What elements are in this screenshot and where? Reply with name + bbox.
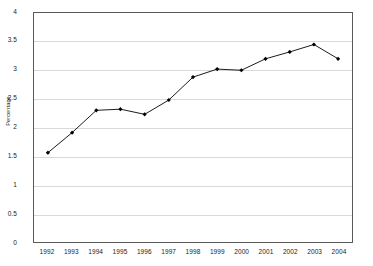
x-tick-label: 2004 <box>319 249 359 256</box>
y-tick-label: 0 <box>0 240 17 247</box>
data-point-marker <box>143 112 147 116</box>
data-point-marker <box>288 50 292 54</box>
data-point-marker <box>215 67 219 71</box>
series-polyline <box>48 44 338 152</box>
data-point-marker <box>239 68 243 72</box>
y-tick-label: 1.5 <box>0 153 17 160</box>
data-point-marker <box>312 42 316 46</box>
y-tick-label: 3 <box>0 66 17 73</box>
series-line-percentage <box>34 13 352 242</box>
y-tick-label: 4 <box>0 9 17 16</box>
data-point-marker <box>118 107 122 111</box>
y-tick-label: 1 <box>0 182 17 189</box>
line-chart: 00.511.522.533.54 Percentage 19921993199… <box>0 0 373 266</box>
x-axis: 1992199319941995199619971998199920002001… <box>33 249 353 263</box>
y-tick-label: 3.5 <box>0 37 17 44</box>
data-point-marker <box>263 57 267 61</box>
data-point-marker <box>336 57 340 61</box>
y-axis-title: Percentage <box>5 83 11 139</box>
y-tick-label: 0.5 <box>0 211 17 218</box>
plot-area <box>33 12 353 243</box>
